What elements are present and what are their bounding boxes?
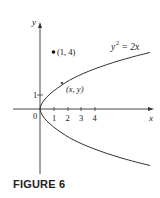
point-xy-label: (x, y) bbox=[66, 84, 84, 94]
point-1-4-label: (1, 4) bbox=[57, 47, 76, 57]
figure-caption: FIGURE 6 bbox=[13, 178, 65, 190]
point-1-4-marker bbox=[52, 50, 56, 54]
figure-plot: y x 0 1 1 2 3 4 (1, 4) (x, y) y 2 = 2x bbox=[0, 0, 160, 198]
svg-text:= 2x: = 2x bbox=[119, 42, 140, 52]
x-tick-label-2: 2 bbox=[66, 113, 70, 123]
x-tick-label-1: 1 bbox=[52, 113, 56, 123]
x-axis-label: x bbox=[148, 113, 153, 123]
x-tick-label-4: 4 bbox=[93, 113, 98, 123]
equation-label: y 2 = 2x bbox=[110, 40, 140, 52]
origin-label: 0 bbox=[33, 111, 37, 121]
y-axis-arrow-icon bbox=[38, 22, 42, 28]
x-axis-arrow-icon bbox=[148, 107, 154, 111]
y-tick-label-1: 1 bbox=[33, 90, 37, 100]
y-axis-label: y bbox=[31, 17, 36, 27]
point-xy-marker bbox=[61, 82, 64, 85]
x-tick-label-3: 3 bbox=[79, 113, 83, 123]
